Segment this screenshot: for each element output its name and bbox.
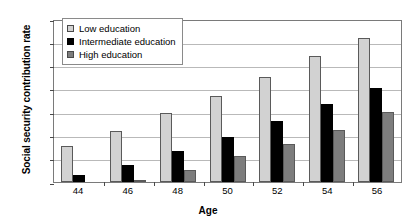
bar-group: [351, 21, 401, 182]
bar: [160, 113, 172, 182]
legend-swatch-high-education: [67, 51, 74, 58]
bar: [134, 180, 146, 182]
chart-legend: Low education Intermediate education Hig…: [62, 18, 183, 65]
bar: [122, 165, 134, 182]
bar: [309, 56, 321, 182]
x-axis-tick-labels: 44464850525456: [53, 185, 402, 196]
bar: [234, 156, 246, 182]
x-tick-label: 46: [103, 185, 153, 196]
bar: [283, 144, 295, 182]
legend-item: Low education: [67, 22, 176, 35]
bar: [382, 112, 394, 182]
x-tick-label: 48: [153, 185, 203, 196]
x-tick-label: 50: [203, 185, 253, 196]
legend-label: Low education: [79, 23, 140, 34]
bar: [184, 170, 196, 182]
y-axis-title: Social security contribution rate: [21, 10, 32, 190]
bar-group: [252, 21, 302, 182]
x-tick-label: 56: [352, 185, 402, 196]
bar: [259, 77, 271, 182]
x-tick-label: 44: [53, 185, 103, 196]
x-tick-label: 54: [302, 185, 352, 196]
bar: [210, 96, 222, 182]
x-tick-label: 52: [252, 185, 302, 196]
bar: [110, 131, 122, 182]
bar: [358, 38, 370, 182]
legend-item: Intermediate education: [67, 35, 176, 48]
bar-group: [203, 21, 253, 182]
legend-swatch-low-education: [67, 25, 74, 32]
bar-group: [302, 21, 352, 182]
bar: [73, 175, 85, 182]
bar: [321, 104, 333, 182]
bar: [333, 130, 345, 182]
x-axis-title: Age: [0, 205, 416, 216]
legend-item: High education: [67, 48, 176, 61]
bar: [222, 137, 234, 182]
bar: [61, 146, 73, 182]
legend-label: High education: [79, 49, 142, 60]
bar: [172, 151, 184, 182]
bar: [370, 88, 382, 182]
legend-label: Intermediate education: [79, 36, 176, 47]
legend-swatch-intermediate-education: [67, 38, 74, 45]
bar: [271, 121, 283, 182]
bar-chart: Social security contribution rate 0%10%2…: [0, 0, 416, 224]
